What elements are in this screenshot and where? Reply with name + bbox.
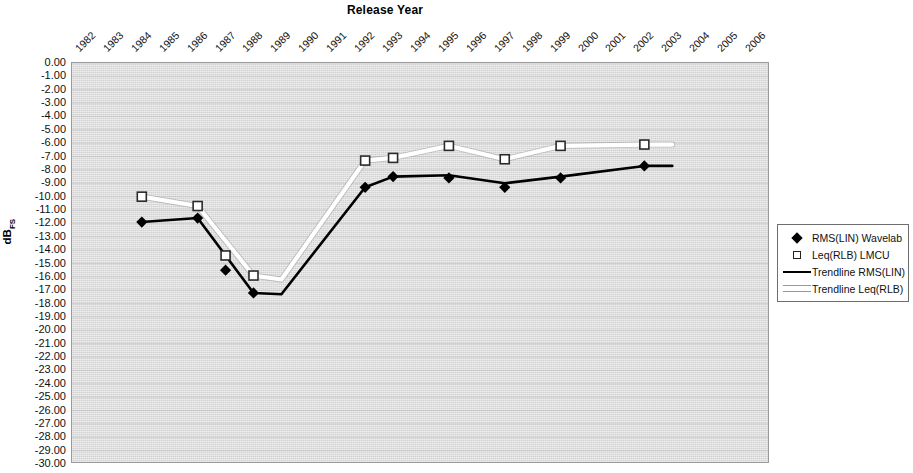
x-axis-tick-label: 1996 <box>463 29 488 54</box>
data-point-leq-rlb <box>556 141 565 150</box>
legend-item[interactable]: RMS(LIN) Wavelab <box>782 229 904 246</box>
legend-item[interactable]: Trendline Leq(RLB) <box>782 280 904 297</box>
legend-symbol <box>782 234 812 242</box>
x-axis-tick-labels: 1982198319841985198619871988198919901991… <box>0 0 913 60</box>
x-axis-tick-label: 1982 <box>72 29 97 54</box>
plot-area <box>71 62 769 463</box>
y-axis-tick-label: -3.00 <box>41 97 66 108</box>
y-axis-tick-label: -1.00 <box>41 70 66 81</box>
data-point-rms-lin <box>387 171 398 182</box>
trendline-rms-lin <box>142 166 672 294</box>
y-axis-tick-label: -7.00 <box>41 150 66 161</box>
y-axis-tick-label: -6.00 <box>41 137 66 148</box>
x-axis-tick-label: 1997 <box>491 29 516 54</box>
x-axis-tick-label: 1995 <box>435 29 460 54</box>
y-axis-title-main: dB <box>1 229 13 244</box>
y-axis-tick-label: -24.00 <box>35 377 66 388</box>
x-axis-tick-label: 1990 <box>296 29 321 54</box>
y-axis-tick-label: -2.00 <box>41 83 66 94</box>
y-axis-tick-label: 0.00 <box>45 57 66 68</box>
legend-item[interactable]: Leq(RLB) LMCU <box>782 246 904 263</box>
y-axis-tick-label: -28.00 <box>35 431 66 442</box>
x-axis-tick-label: 2002 <box>631 29 656 54</box>
legend-item-label: Trendline Leq(RLB) <box>812 283 903 295</box>
x-axis-tick-label: 1999 <box>547 29 572 54</box>
black-line-icon <box>783 271 811 273</box>
x-axis-tick-label: 1989 <box>268 29 293 54</box>
y-axis-tick-label: -20.00 <box>35 324 66 335</box>
y-axis-tick-label: -15.00 <box>35 257 66 268</box>
y-axis-tick-label: -21.00 <box>35 337 66 348</box>
diamond-marker-icon <box>791 232 802 243</box>
plot-svg <box>72 63 769 463</box>
y-axis-tick-label: -4.00 <box>41 110 66 121</box>
x-axis-tick-label: 1992 <box>352 29 377 54</box>
x-axis-tick-label: 2006 <box>743 29 768 54</box>
x-axis-tick-label: 1991 <box>324 29 349 54</box>
y-axis-tick-label: -8.00 <box>41 163 66 174</box>
data-point-leq-rlb <box>361 156 370 165</box>
y-axis-tick-label: -10.00 <box>35 190 66 201</box>
x-axis-tick-label: 2004 <box>687 29 712 54</box>
x-axis-tick-label: 1988 <box>240 29 265 54</box>
data-point-rms-lin <box>555 172 566 183</box>
legend-item-label: Trendline RMS(LIN) <box>812 266 905 278</box>
data-point-leq-rlb <box>193 202 202 211</box>
y-axis-tick-label: -29.00 <box>35 444 66 455</box>
y-axis-tick-label: -5.00 <box>41 123 66 134</box>
y-axis-tick-label: -25.00 <box>35 391 66 402</box>
data-point-leq-rlb <box>137 192 146 201</box>
legend-item[interactable]: Trendline RMS(LIN) <box>782 263 904 280</box>
y-axis-tick-label: -22.00 <box>35 351 66 362</box>
data-point-leq-rlb <box>249 271 258 280</box>
x-axis-tick-label: 1994 <box>408 29 433 54</box>
data-point-rms-lin <box>443 172 454 183</box>
legend-item-label: Leq(RLB) LMCU <box>812 249 890 261</box>
y-axis-tick-label: -19.00 <box>35 310 66 321</box>
y-axis-tick-label: -9.00 <box>41 177 66 188</box>
y-axis-tick-label: -17.00 <box>35 284 66 295</box>
y-axis-title: dBFS <box>1 209 16 255</box>
y-axis-tick-label: -16.00 <box>35 270 66 281</box>
y-axis-tick-label: -27.00 <box>35 417 66 428</box>
y-axis-tick-label: -18.00 <box>35 297 66 308</box>
legend-symbol <box>782 271 812 273</box>
y-axis-tick-label: -14.00 <box>35 244 66 255</box>
data-point-leq-rlb <box>389 153 398 162</box>
data-point-leq-rlb <box>640 140 649 149</box>
white-line-icon <box>783 285 811 292</box>
x-axis-tick-label: 2000 <box>575 29 600 54</box>
data-point-leq-rlb <box>444 141 453 150</box>
legend-symbol <box>782 285 812 292</box>
legend-symbol <box>782 251 812 259</box>
x-axis-tick-label: 1985 <box>156 29 181 54</box>
data-point-rms-lin <box>220 265 231 276</box>
y-axis-tick-label: -11.00 <box>36 204 66 215</box>
x-axis-tick-label: 2001 <box>603 29 628 54</box>
legend-item-label: RMS(LIN) Wavelab <box>812 232 902 244</box>
x-axis-tick-label: 1993 <box>380 29 405 54</box>
x-axis-tick-label: 1984 <box>128 29 153 54</box>
y-axis-tick-label: -30.00 <box>35 458 66 469</box>
square-marker-icon <box>793 251 801 259</box>
y-axis-title-sub: FS <box>8 219 17 229</box>
y-axis-tick-label: -12.00 <box>35 217 66 228</box>
y-axis-tick-label: -23.00 <box>35 364 66 375</box>
x-axis-tick-label: 2003 <box>659 29 684 54</box>
x-axis-tick-label: 1983 <box>100 29 125 54</box>
y-axis-tick-label: -13.00 <box>35 230 66 241</box>
x-axis-tick-label: 1987 <box>212 29 237 54</box>
chart-legend: RMS(LIN) WavelabLeq(RLB) LMCUTrendline R… <box>777 224 909 302</box>
data-point-leq-rlb <box>500 155 509 164</box>
chart-container: Release Year 198219831984198519861987198… <box>0 0 913 473</box>
x-axis-tick-label: 1986 <box>184 29 209 54</box>
y-axis-tick-label: -26.00 <box>35 404 66 415</box>
data-point-leq-rlb <box>221 251 230 260</box>
x-axis-tick-label: 1998 <box>519 29 544 54</box>
data-point-rms-lin <box>136 216 147 227</box>
x-axis-tick-label: 2005 <box>715 29 740 54</box>
